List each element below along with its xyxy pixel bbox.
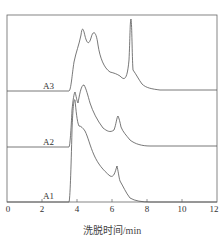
plot-frame [7,15,217,202]
svg-text:4: 4 [75,204,80,214]
x-ticks [42,199,182,202]
trace-a1 [7,100,217,202]
chromatogram-chart: 0 2 4 6 8 10 12 A3 A2 A1 [0,0,224,239]
svg-text:10: 10 [178,204,188,214]
label-a2: A2 [43,137,54,147]
svg-text:8: 8 [145,204,150,214]
svg-text:0: 0 [6,204,11,214]
x-axis-label: 洗脱时间/min [0,222,224,237]
label-a3: A3 [43,81,54,91]
trace-a3 [7,19,217,91]
svg-text:12: 12 [210,204,219,214]
trace-a2 [7,85,217,147]
x-tick-labels: 0 2 4 6 8 10 12 [6,204,219,214]
label-a1: A1 [43,191,54,201]
svg-text:2: 2 [40,204,45,214]
svg-text:6: 6 [110,204,115,214]
